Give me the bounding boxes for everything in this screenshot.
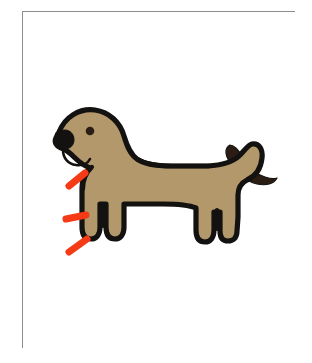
eye bbox=[86, 127, 95, 136]
bark-line-middle bbox=[66, 215, 86, 219]
picture-frame: Cartoon dachshund dog barking A simple c… bbox=[22, 11, 295, 348]
dachshund-illustration: Cartoon dachshund dog barking A simple c… bbox=[23, 12, 296, 349]
nose bbox=[56, 130, 74, 149]
illustration-canvas: Cartoon dachshund dog barking A simple c… bbox=[0, 0, 312, 363]
